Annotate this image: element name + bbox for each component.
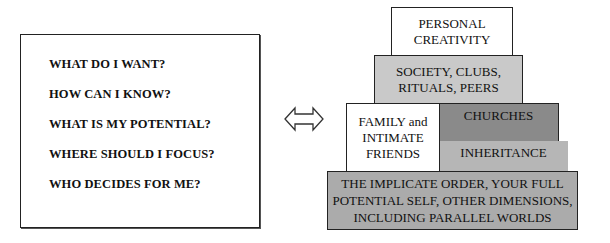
- block-line: INTIMATE: [358, 130, 427, 146]
- block-line: POTENTIAL SELF, OTHER DIMENSIONS,: [332, 192, 572, 209]
- block-line: THE IMPLICATE ORDER, YOUR FULL: [332, 175, 572, 192]
- block-line: RITUALS, PEERS: [396, 80, 501, 96]
- block-family: FAMILY and INTIMATE FRIENDS: [346, 103, 440, 172]
- block-line: FRIENDS: [358, 146, 427, 162]
- block-inheritance: INHERITANCE: [438, 141, 568, 172]
- question-item: WHERE SHOULD I FOCUS?: [49, 147, 215, 177]
- block-line: SOCIETY, CLUBS,: [396, 64, 501, 80]
- block-line: FAMILY and: [358, 114, 427, 130]
- question-item: WHO DECIDES FOR ME?: [49, 177, 215, 207]
- block-line: CHURCHES: [464, 108, 533, 124]
- block-churches: CHURCHES: [438, 103, 559, 142]
- question-item: WHAT IS MY POTENTIAL?: [49, 117, 215, 147]
- double-arrow-icon: [284, 106, 324, 132]
- block-line: PERSONAL: [414, 16, 491, 32]
- block-line: INCLUDING PARALLEL WORLDS: [332, 209, 572, 226]
- questions-box: WHAT DO I WANT? HOW CAN I KNOW? WHAT IS …: [20, 34, 260, 228]
- question-item: WHAT DO I WANT?: [49, 57, 215, 87]
- question-item: HOW CAN I KNOW?: [49, 87, 215, 117]
- block-line: INHERITANCE: [460, 145, 546, 161]
- block-line: CREATIVITY: [414, 32, 491, 48]
- block-personal-creativity: PERSONAL CREATIVITY: [391, 7, 513, 56]
- block-implicate-order: THE IMPLICATE ORDER, YOUR FULL POTENTIAL…: [327, 171, 578, 230]
- questions-list: WHAT DO I WANT? HOW CAN I KNOW? WHAT IS …: [49, 57, 215, 207]
- block-society: SOCIETY, CLUBS, RITUALS, PEERS: [374, 55, 523, 104]
